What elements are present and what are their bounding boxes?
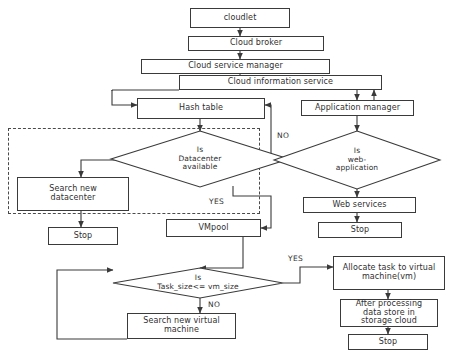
node-cloud-service-manager-label: Cloud service manager [188,62,283,71]
node-search-new-virtual-machine-label: Search new virtual machine [143,317,219,335]
decision-is-web-application-label: Is web- application [336,147,378,173]
decision-is-datacenter-available[interactable]: Is Datacenter available [111,131,289,187]
decision-is-web-application[interactable]: Is web- application [274,131,440,189]
node-application-manager[interactable]: Application manager [301,100,414,116]
edge-label-tasksize-yes: YES [288,254,303,263]
node-stop-right[interactable]: Stop [318,222,402,238]
decision-is-task-size[interactable]: Is Task_size<= vm_size [113,268,283,298]
node-cloudlet-label: cloudlet [224,14,257,23]
node-cloud-information-service-label: Cloud information service [228,78,333,87]
edge-label-webapp-no: NO [277,131,289,140]
node-search-new-datacenter-label: Search new datacenter [49,185,97,203]
node-cloud-service-manager[interactable]: Cloud service manager [141,59,330,74]
decision-is-task-size-label: Is Task_size<= vm_size [157,274,238,291]
node-stop-left[interactable]: Stop [48,227,118,245]
node-search-new-virtual-machine[interactable]: Search new virtual machine [127,313,236,339]
node-allocate-task-label: Allocate task to virtual machine(vm) [343,264,436,282]
node-search-new-datacenter[interactable]: Search new datacenter [17,177,129,211]
edge-label-datacenter-yes: YES [209,197,224,206]
node-stop-bottom-label: Stop [379,338,398,347]
node-allocate-task[interactable]: Allocate task to virtual machine(vm) [333,256,445,290]
node-web-services-label: Web services [332,201,386,210]
flowchart-canvas: cloudlet Cloud broker Cloud service mana… [0,0,458,354]
node-after-processing[interactable]: After processing data store in storage c… [340,299,438,327]
node-application-manager-label: Application manager [315,104,400,113]
node-hash-table[interactable]: Hash table [137,98,265,119]
node-vmpool-label: VMpool [198,224,228,233]
node-cloud-information-service[interactable]: Cloud information service [179,75,382,90]
node-cloud-broker[interactable]: Cloud broker [188,36,324,51]
node-hash-table-label: Hash table [179,104,223,113]
node-cloud-broker-label: Cloud broker [230,39,282,48]
node-stop-bottom[interactable]: Stop [348,334,428,350]
node-stop-right-label: Stop [351,226,370,235]
node-after-processing-label: After processing data store in storage c… [356,300,422,327]
node-cloudlet[interactable]: cloudlet [190,8,290,28]
edge-label-tasksize-no: NO [208,300,220,309]
decision-is-datacenter-available-label: Is Datacenter available [178,146,221,172]
node-vmpool[interactable]: VMpool [166,219,261,237]
node-web-services[interactable]: Web services [303,197,416,213]
node-stop-left-label: Stop [74,232,93,241]
